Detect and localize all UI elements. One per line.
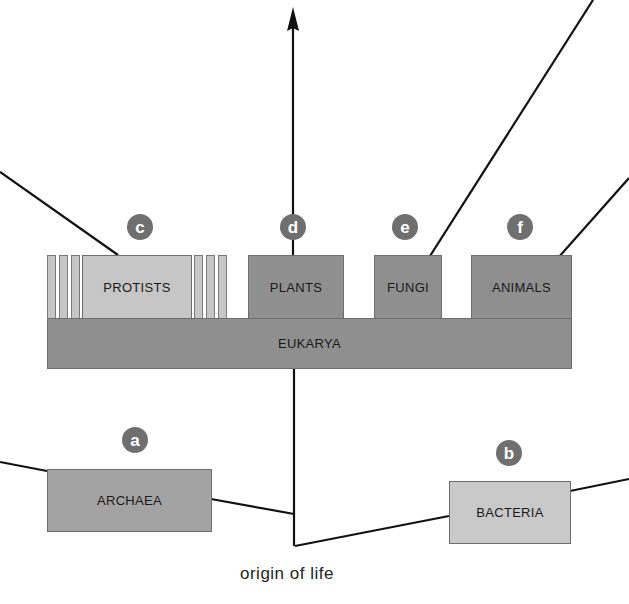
eukarya-label: EUKARYA	[278, 336, 341, 351]
animals-label: ANIMALS	[492, 280, 551, 295]
eukarya-box: EUKARYA	[47, 318, 572, 369]
plants-box: PLANTS	[248, 255, 344, 319]
bacteria-to-trunk-line	[295, 516, 449, 546]
protists-box: PROTISTS	[82, 255, 192, 319]
protist-bar	[59, 255, 68, 319]
badge-b: b	[496, 440, 522, 466]
archaea-left-line	[0, 462, 47, 471]
archaea-to-trunk-line	[211, 499, 294, 514]
protist-bar	[218, 255, 227, 319]
badge-e: e	[392, 214, 418, 240]
badge-f: f	[507, 214, 533, 240]
fungi-box: FUNGI	[374, 255, 442, 319]
bacteria-box: BACTERIA	[449, 481, 571, 544]
animals-branch-line	[550, 178, 629, 267]
protist-bar	[206, 255, 215, 319]
origin-of-life-label: origin of life	[240, 564, 334, 584]
plants-label: PLANTS	[270, 280, 322, 295]
protists-branch-line	[0, 172, 118, 255]
badge-c: c	[127, 214, 153, 240]
badge-d: d	[280, 214, 306, 240]
protists-label: PROTISTS	[103, 280, 170, 295]
archaea-box: ARCHAEA	[47, 469, 212, 532]
arrow-up-icon	[287, 7, 299, 31]
protist-bar	[47, 255, 56, 319]
bacteria-right-line	[570, 479, 629, 491]
protist-bar	[194, 255, 203, 319]
protist-bar	[71, 255, 80, 319]
badge-a: a	[122, 427, 148, 453]
animals-box: ANIMALS	[471, 255, 572, 319]
fungi-label: FUNGI	[387, 280, 429, 295]
bacteria-label: BACTERIA	[476, 505, 543, 520]
archaea-label: ARCHAEA	[97, 493, 162, 508]
